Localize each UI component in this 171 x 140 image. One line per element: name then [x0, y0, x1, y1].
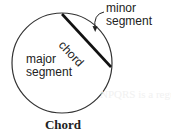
- chord-diagram: NPQRS is a regular pentagon minor segmen…: [0, 0, 171, 140]
- bleed-through-text: NPQRS is a regular pentagon: [100, 88, 171, 100]
- minor-label-line2: segment: [106, 15, 152, 28]
- figure-caption: Chord: [0, 117, 126, 133]
- minor-segment-label: minor segment: [106, 2, 152, 28]
- arrow-head-icon: [93, 26, 98, 32]
- major-label-line2: segment: [26, 66, 72, 79]
